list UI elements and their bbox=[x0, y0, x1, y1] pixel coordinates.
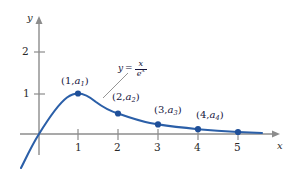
x-axis-arrow bbox=[272, 131, 280, 138]
x-tick-label-5: 5 bbox=[234, 142, 241, 153]
data-point-1 bbox=[75, 90, 81, 96]
point-label-4-open: (4, bbox=[196, 109, 209, 120]
y-axis-label: y bbox=[27, 13, 33, 23]
point-label-3-close: ) bbox=[178, 104, 182, 115]
x-tick-label-3: 3 bbox=[154, 142, 161, 153]
point-label-4-close: ) bbox=[220, 109, 224, 120]
point-label-1-idx: 1 bbox=[80, 80, 84, 88]
function-curve bbox=[21, 94, 262, 169]
point-label-3-idx: 3 bbox=[173, 109, 177, 117]
point-label-2: (2,a2) bbox=[112, 92, 140, 102]
function-label: y = x ex bbox=[118, 60, 147, 78]
data-point-3 bbox=[155, 121, 161, 127]
data-point-2 bbox=[115, 110, 121, 116]
point-label-3-open: (3, bbox=[154, 104, 167, 115]
y-tick-label-1: 1 bbox=[23, 88, 30, 99]
y-axis-arrow bbox=[36, 16, 43, 24]
point-label-4: (4,a4) bbox=[196, 110, 224, 120]
data-point-4 bbox=[195, 126, 201, 132]
plot-area bbox=[0, 0, 299, 169]
point-label-1-close: ) bbox=[85, 75, 89, 86]
chart-figure: y x 1 2 1 2 3 4 5 (1,a1) (2,a2) (3,a3) (… bbox=[0, 0, 299, 169]
function-label-y: y bbox=[118, 64, 123, 73]
x-axis-label: x bbox=[277, 141, 283, 151]
point-label-2-close: ) bbox=[136, 91, 140, 102]
y-tick-label-2: 2 bbox=[22, 46, 29, 57]
x-tick-label-2: 2 bbox=[114, 142, 121, 153]
point-label-2-idx: 2 bbox=[131, 96, 135, 104]
point-label-1-open: (1, bbox=[61, 75, 74, 86]
function-label-denominator-exponent: x bbox=[141, 66, 144, 73]
point-label-4-idx: 4 bbox=[215, 114, 219, 122]
function-label-equals: = bbox=[125, 64, 133, 73]
point-label-2-open: (2, bbox=[112, 91, 125, 102]
function-label-denominator: ex bbox=[135, 69, 147, 78]
x-tick-label-1: 1 bbox=[75, 142, 82, 153]
x-tick-label-4: 4 bbox=[194, 142, 201, 153]
data-point-5 bbox=[235, 129, 241, 135]
function-label-fraction: x ex bbox=[135, 60, 147, 78]
point-label-3: (3,a3) bbox=[154, 105, 182, 115]
point-label-1: (1,a1) bbox=[61, 76, 89, 86]
